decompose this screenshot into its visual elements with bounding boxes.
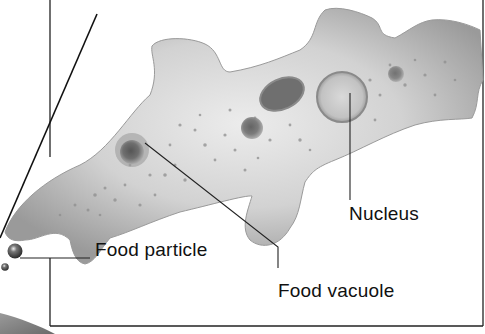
food-vacuole bbox=[115, 133, 149, 167]
label-nucleus: Nucleus bbox=[349, 204, 419, 223]
nucleus bbox=[317, 72, 367, 122]
food-vacuole-small bbox=[241, 117, 263, 139]
adjacent-shape bbox=[0, 313, 55, 334]
diagram-canvas bbox=[0, 0, 485, 334]
label-food-vacuole: Food vacuole bbox=[278, 281, 394, 300]
food-particles bbox=[1, 244, 22, 271]
food-vacuole-far bbox=[388, 66, 404, 82]
label-food-particle: Food particle bbox=[95, 240, 207, 259]
amoeba-body bbox=[5, 8, 483, 264]
amoeba-diagram: Food particle Food vacuole Nucleus bbox=[0, 0, 485, 334]
